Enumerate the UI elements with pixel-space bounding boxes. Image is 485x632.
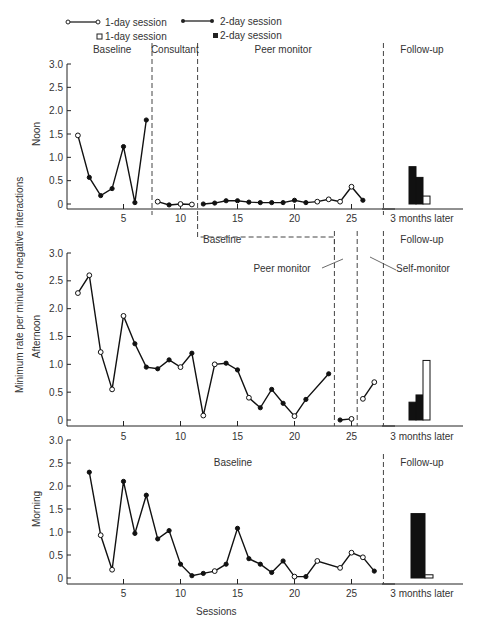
y-tick-label: 2.5 [49, 82, 63, 93]
data-point-1-day [178, 365, 183, 370]
data-point-1-day [76, 291, 81, 296]
data-point-1-day [372, 380, 377, 385]
phase-label-consultant: Consultant [151, 44, 199, 55]
y-tick-label: 2.5 [49, 275, 63, 286]
data-point-2-day [247, 200, 251, 204]
x-tick-label: 20 [289, 431, 301, 442]
followup-x-label: 3 months later [390, 588, 454, 599]
data-point-2-day [133, 201, 137, 205]
multiple-baseline-chart: 1-day session 2-day session 1-day sessio… [0, 0, 485, 632]
legend-label-2day-line: 2-day session [220, 16, 282, 27]
data-point-1-day [178, 202, 183, 207]
y-tick-label: 3.0 [49, 435, 63, 446]
followup-bar-2-day [416, 395, 423, 420]
data-point-1-day [98, 533, 103, 538]
phase-label-follow-up: Follow-up [400, 44, 444, 55]
legend-filled-circle-left [181, 19, 185, 23]
data-point-2-day [270, 570, 274, 574]
panel-label-noon: Noon [31, 122, 42, 146]
x-tick-label: 25 [346, 213, 358, 224]
legend-label-1day-line: 1-day session [105, 17, 167, 28]
data-point-2-day [133, 342, 137, 346]
data-point-2-day [144, 365, 148, 369]
peer-monitor-pointer [322, 259, 343, 268]
phase-label-baseline: Baseline [214, 457, 253, 468]
x-tick-label: 10 [175, 588, 187, 599]
y-tick-label: 0.5 [49, 387, 63, 398]
data-point-2-day [235, 368, 239, 372]
legend-filled-square [213, 33, 218, 38]
data-point-1-day [349, 184, 354, 189]
series-line-baseline [78, 275, 329, 416]
data-point-2-day [327, 372, 331, 376]
data-point-2-day [87, 175, 91, 179]
panel-afternoon: 00.51.01.52.02.53.0Afternoon5101520253 m… [31, 216, 463, 442]
data-point-2-day [87, 470, 91, 474]
data-point-2-day [121, 479, 125, 483]
data-point-2-day [99, 194, 103, 198]
data-point-2-day [224, 562, 228, 566]
data-point-1-day [201, 413, 206, 418]
x-tick-label: 25 [346, 431, 358, 442]
data-point-2-day [156, 537, 160, 541]
data-point-2-day [167, 358, 171, 362]
data-point-2-day [258, 406, 262, 410]
y-tick-label: 1.0 [49, 359, 63, 370]
series-line-self-monitor [363, 382, 374, 399]
data-point-1-day [326, 197, 331, 202]
y-tick-label: 2.0 [49, 481, 63, 492]
followup-bar-2-day [416, 177, 423, 204]
data-point-2-day [361, 198, 365, 202]
data-point-2-day [372, 569, 376, 573]
phase-label-peer-monitor: Peer monitor [253, 263, 311, 274]
panel-label-morning: Morning [31, 491, 42, 527]
legend-label-1day-bar: 1-day session [105, 31, 167, 42]
data-point-2-day [144, 493, 148, 497]
panel-label-afternoon: Afternoon [31, 315, 42, 358]
data-point-1-day [76, 133, 81, 138]
data-point-2-day [270, 387, 274, 391]
followup-x-label: 3 months later [390, 213, 454, 224]
series-line-baseline [89, 472, 374, 576]
data-point-2-day [292, 198, 296, 202]
followup-bar-1-day [423, 360, 430, 420]
x-tick-label: 5 [121, 431, 127, 442]
data-point-1-day [98, 350, 103, 355]
data-point-2-day [144, 118, 148, 122]
series-line-consultant [158, 202, 192, 205]
data-point-1-day [212, 569, 217, 574]
data-point-2-day [121, 145, 125, 149]
data-point-1-day [292, 414, 297, 419]
legend-open-square [97, 34, 102, 39]
y-tick-label: 0 [57, 573, 63, 584]
phase-label-baseline: Baseline [203, 234, 242, 245]
y-tick-label: 0 [57, 199, 63, 210]
data-point-2-day [281, 201, 285, 205]
x-tick-label: 10 [175, 213, 187, 224]
data-point-1-day [361, 396, 366, 401]
x-tick-label: 25 [346, 588, 358, 599]
phase-label-peer-monitor: Peer monitor [254, 44, 312, 55]
data-point-2-day [247, 557, 251, 561]
x-tick-label: 5 [121, 588, 127, 599]
data-point-1-day [361, 555, 366, 560]
followup-bar-1-day [423, 196, 430, 204]
followup-bar-1-day [425, 575, 433, 578]
data-point-2-day [156, 367, 160, 371]
legend-label-2day-bar: 2-day session [220, 30, 282, 41]
data-point-2-day [235, 199, 239, 203]
followup-bar-2-day [411, 514, 425, 578]
data-point-1-day [190, 202, 195, 207]
legend: 1-day session 2-day session 1-day sessio… [66, 16, 282, 42]
data-point-1-day [349, 416, 354, 421]
y-tick-label: 1.5 [49, 504, 63, 515]
y-tick-label: 1.0 [49, 152, 63, 163]
x-tick-label: 10 [175, 431, 187, 442]
x-axis-label: Sessions [196, 606, 237, 617]
x-tick-label: 20 [289, 213, 301, 224]
data-point-1-day [110, 387, 115, 392]
x-tick-label: 20 [289, 588, 301, 599]
data-point-2-day [304, 201, 308, 205]
data-point-2-day [133, 531, 137, 535]
data-point-2-day [201, 571, 205, 575]
